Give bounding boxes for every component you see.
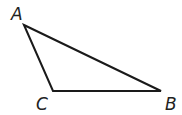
vertex-label-b: B (165, 94, 177, 114)
vertex-label-a: A (10, 4, 23, 24)
triangle-abc (24, 25, 161, 91)
triangle-diagram: A B C (0, 0, 182, 115)
vertex-label-c: C (36, 94, 48, 114)
